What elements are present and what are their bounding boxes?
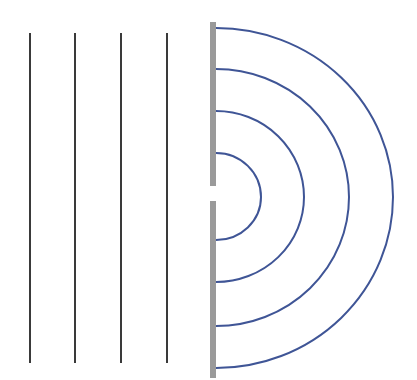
diffracted-wavefront-arc (216, 69, 349, 326)
diffracted-wavefront-arc (216, 153, 261, 240)
barrier-upper (210, 22, 216, 186)
diffraction-diagram (0, 0, 417, 380)
barrier-lower (210, 201, 216, 378)
slit-barrier (210, 22, 216, 378)
diffracted-wavefronts (216, 28, 393, 368)
incident-wavefronts (30, 33, 167, 363)
